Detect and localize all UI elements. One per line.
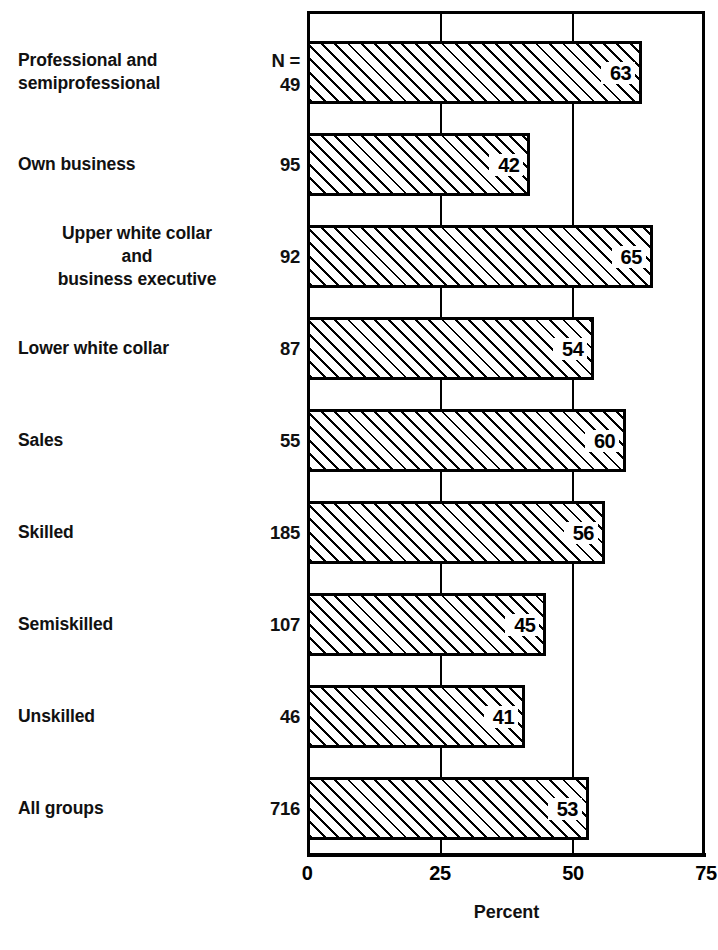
bar-value-label: 65 [620, 247, 643, 267]
n-count-value: 95 [180, 153, 300, 176]
bar: 45 [307, 593, 546, 656]
n-count-value: 55 [180, 429, 300, 452]
bar-value-label: 53 [556, 799, 579, 819]
category-label-line: business executive [12, 268, 262, 291]
bar: 41 [307, 685, 525, 748]
category-label-line: Upper white collar [12, 222, 262, 245]
bar-value-label: 45 [513, 615, 536, 635]
n-count-value: 87 [180, 337, 300, 360]
x-tick-label: 75 [695, 862, 716, 885]
bar: 56 [307, 501, 605, 564]
bar: 65 [307, 225, 653, 288]
n-count-value: 107 [180, 613, 300, 636]
bar-value-label: 54 [561, 339, 584, 359]
bar: 63 [307, 41, 642, 104]
n-count-label: 107 [180, 613, 300, 636]
n-count-label: 185 [180, 521, 300, 544]
bar: 54 [307, 317, 594, 380]
bar: 60 [307, 409, 626, 472]
x-axis-title: Percent [307, 902, 706, 923]
x-tick-label: 50 [562, 862, 583, 885]
n-count-value: 46 [180, 705, 300, 728]
n-count-value: 92 [180, 245, 300, 268]
n-count-label: 95 [180, 153, 300, 176]
n-count-label: 92 [180, 245, 300, 268]
n-equals-header: N = [180, 49, 300, 72]
x-tick-label: 0 [302, 862, 313, 885]
bar-value-label: 63 [609, 63, 632, 83]
x-tick-label: 25 [429, 862, 450, 885]
x-axis-line [307, 853, 706, 857]
bar-chart: Professional andsemiprofessionalN =49Own… [0, 0, 718, 950]
n-count-value: 185 [180, 521, 300, 544]
bar: 42 [307, 133, 530, 196]
bar: 53 [307, 777, 589, 840]
n-count-value: 716 [180, 797, 300, 820]
bar-value-label: 42 [497, 155, 520, 175]
n-count-label: 46 [180, 705, 300, 728]
n-count-value: 49 [180, 73, 300, 96]
n-count-label: 55 [180, 429, 300, 452]
bar-value-label: 41 [492, 707, 515, 727]
bar-value-label: 56 [572, 523, 595, 543]
bar-value-label: 60 [593, 431, 616, 451]
n-count-label: 716 [180, 797, 300, 820]
n-count-label: N =49 [180, 49, 300, 95]
n-count-label: 87 [180, 337, 300, 360]
